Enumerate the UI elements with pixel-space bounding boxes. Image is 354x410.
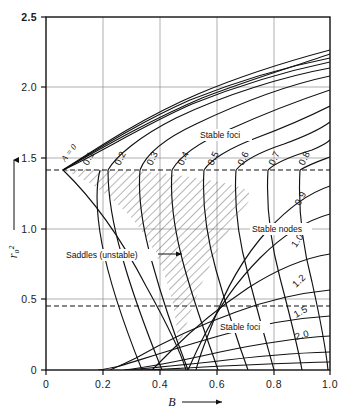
y-tick-1: 0.5	[21, 293, 37, 305]
y-tick-2: 1.0	[21, 223, 37, 235]
x-tick-1: 0.2	[95, 378, 111, 390]
x-tick-0: 0	[43, 378, 49, 390]
stable-foci-lower-label: Stable foci	[220, 322, 260, 332]
x-tick-5: 1.0	[322, 378, 338, 390]
saddles-unstable-label: Saddles (unstable)	[66, 250, 138, 260]
stable-nodes-label: Stable nodes	[252, 224, 302, 234]
stable-foci-upper-label: Stable foci	[200, 130, 240, 140]
y-axis-title: r₀²	[6, 245, 20, 258]
chart-svg: 0 0.2 0.4 0.6 0.8 1.0 0 0.5 1.0 1.5 2.0 …	[0, 0, 354, 410]
figure-container: 0 0.2 0.4 0.6 0.8 1.0 0 0.5 1.0 1.5 2.0 …	[0, 0, 354, 410]
y-tick-3: 1.5	[21, 152, 37, 164]
x-tick-3: 0.6	[209, 378, 225, 390]
y-tick-0: 0	[31, 364, 37, 376]
y-tick-4: 2.0	[21, 81, 37, 93]
x-axis-title: B	[168, 395, 176, 409]
y-tick-5: 2.5	[21, 11, 37, 23]
x-tick-2: 0.4	[152, 378, 168, 390]
x-tick-4: 0.8	[266, 378, 282, 390]
